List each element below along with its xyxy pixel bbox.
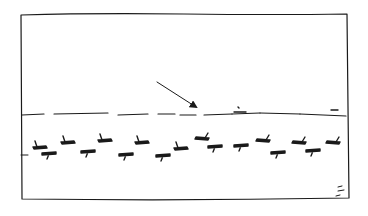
horizon-segment: [232, 113, 260, 114]
horizon-segment: [260, 113, 300, 114]
corner-mark: [338, 190, 344, 191]
bird-icon: [135, 136, 149, 144]
bird-icon: [81, 150, 95, 157]
bird-icon: [326, 137, 340, 144]
panel-frame: [21, 14, 349, 200]
horizon-segment: [118, 114, 148, 115]
bird-icon: [234, 144, 248, 151]
horizon-segment: [300, 114, 346, 116]
bird-icon: [33, 141, 47, 149]
cartoon-panel: [0, 0, 368, 216]
horizon-segment: [204, 114, 232, 115]
horizon-segment: [22, 114, 44, 115]
horizon-segment: [54, 113, 108, 114]
bird-icon: [271, 151, 285, 158]
horizon-line: [22, 113, 346, 116]
cartoon-drawing: [0, 0, 368, 216]
bird-icon: [98, 134, 112, 142]
horizon-mark: [238, 107, 239, 108]
bird-row-lower: [42, 144, 320, 161]
arrow-icon: [157, 82, 196, 107]
bird-icon: [61, 136, 75, 144]
bird-icon: [174, 142, 188, 150]
bird-icon: [306, 149, 320, 156]
corner-mark: [336, 195, 340, 196]
bird-icon: [195, 133, 209, 140]
bird-icon: [292, 137, 306, 144]
bird-icon: [119, 153, 133, 160]
bird-icon: [42, 152, 56, 159]
bird-row-upper: [33, 133, 340, 150]
corner-mark: [338, 186, 342, 187]
bird-icon: [256, 135, 270, 142]
sketch-marks: [21, 107, 344, 196]
bird-icon: [156, 154, 170, 161]
bird-icon: [208, 145, 222, 152]
